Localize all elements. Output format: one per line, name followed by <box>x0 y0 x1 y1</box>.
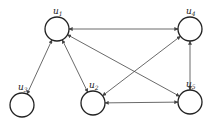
edge-u1-u2 <box>62 40 88 92</box>
edge-u1-u3 <box>27 40 52 94</box>
node-label: u2 <box>89 80 99 91</box>
edge-u2-u5 <box>105 102 178 103</box>
node-label: u4 <box>186 6 196 17</box>
node-label: u5 <box>186 79 196 90</box>
nodes: u1u2u3u4u5 <box>10 6 202 117</box>
edge-u1-u5 <box>68 35 180 96</box>
node-label: u1 <box>53 6 63 17</box>
edge-u2-u4 <box>103 36 181 95</box>
graph-diagram: u1u2u3u4u5 <box>0 0 213 122</box>
node-u4: u4 <box>178 6 202 41</box>
node-label: u3 <box>18 82 28 93</box>
node-u1: u1 <box>45 6 69 41</box>
node-u5: u5 <box>178 79 202 114</box>
